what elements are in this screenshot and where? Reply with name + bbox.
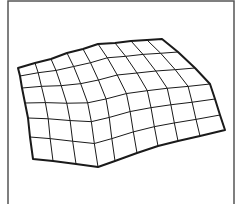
grid-row-line <box>20 52 178 76</box>
grid-column-line <box>35 63 53 161</box>
grid-row-line <box>28 99 215 122</box>
warped-grid-diagram <box>0 0 238 204</box>
grid-row-line <box>25 84 210 103</box>
grid-column-line <box>51 59 76 164</box>
